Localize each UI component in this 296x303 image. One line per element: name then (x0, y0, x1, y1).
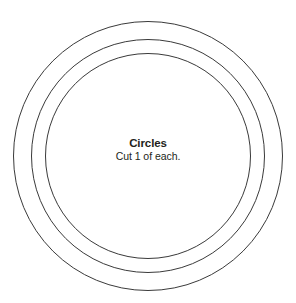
inner-circle (46, 54, 251, 259)
pattern-sheet: Circles Cut 1 of each. (0, 0, 296, 303)
concentric-circles-diagram (0, 0, 296, 303)
